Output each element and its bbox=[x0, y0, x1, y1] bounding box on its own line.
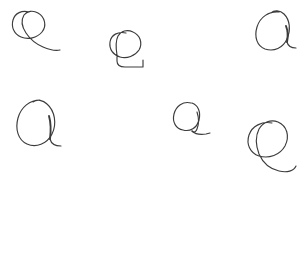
ink-stroke-5 bbox=[173, 103, 210, 135]
ink-stroke-4 bbox=[17, 100, 61, 146]
ink-stroke-2 bbox=[110, 31, 143, 67]
drawing-canvas[interactable] bbox=[0, 0, 306, 190]
ink-stroke-3 bbox=[256, 11, 296, 50]
handwriting-recognition-app: Templates: e e e e e a a a a a bbox=[0, 0, 306, 253]
ink-stroke-6 bbox=[248, 121, 296, 172]
ink-stroke-1 bbox=[12, 11, 60, 50]
templates-legend: Templates: e e e e e a a a a a bbox=[0, 190, 306, 253]
